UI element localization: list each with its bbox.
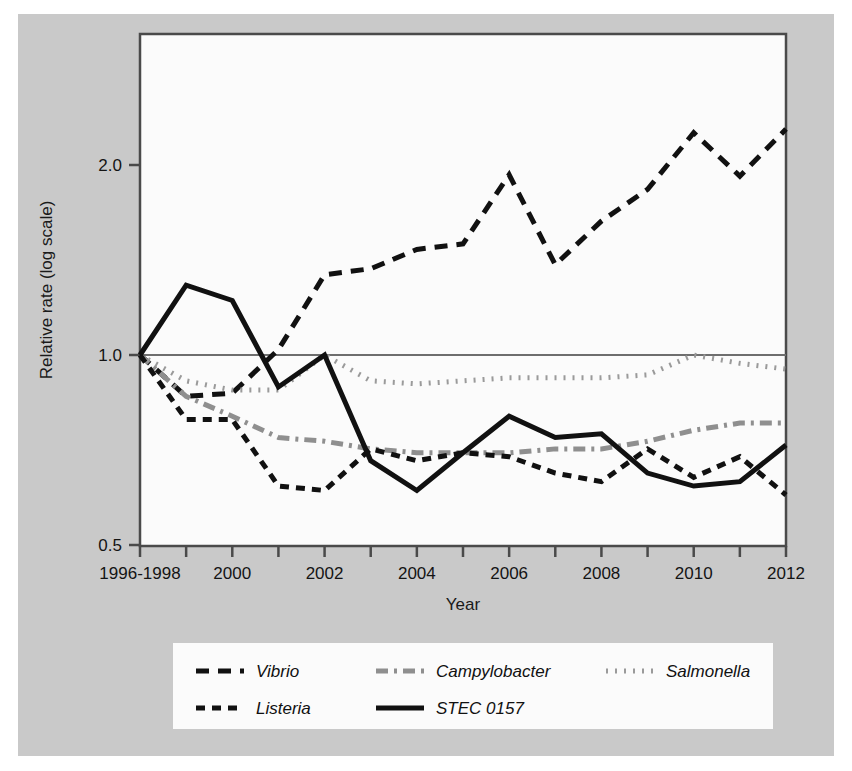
- x-tick-label: 2004: [398, 564, 436, 583]
- x-axis-title: Year: [446, 595, 481, 614]
- x-tick-label: 2010: [675, 564, 713, 583]
- x-tick-label: 2000: [213, 564, 251, 583]
- x-tick-label: 2006: [490, 564, 528, 583]
- plot-area-background: [140, 34, 786, 546]
- legend-label: STEC 0157: [436, 699, 524, 718]
- legend-label: Vibrio: [256, 662, 299, 681]
- x-tick-label: 2008: [583, 564, 621, 583]
- legend-label: Listeria: [256, 699, 311, 718]
- x-tick-label: 1996-1998: [99, 564, 180, 583]
- y-axis-title: Relative rate (log scale): [37, 201, 56, 380]
- legend: VibrioCampylobacterSalmonellaListeriaSTE…: [173, 643, 773, 729]
- x-tick-label: 2012: [767, 564, 805, 583]
- legend-label: Salmonella: [666, 662, 750, 681]
- x-tick-label: 2002: [306, 564, 344, 583]
- y-tick-label: 1.0: [98, 346, 122, 365]
- line-chart: 0.51.02.0 1996-1998200020022004200620082…: [18, 14, 834, 756]
- y-tick-label: 2.0: [98, 156, 122, 175]
- y-tick-label: 0.5: [98, 536, 122, 555]
- legend-label: Campylobacter: [436, 662, 552, 681]
- figure-panel: 0.51.02.0 1996-1998200020022004200620082…: [18, 14, 834, 756]
